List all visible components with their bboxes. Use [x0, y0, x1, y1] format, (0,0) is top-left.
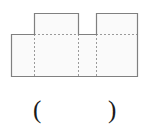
net-fill-group: [11, 13, 138, 77]
right-tab-fill: [96, 13, 138, 34]
figure-root: ( ): [0, 0, 149, 129]
base-rectangle-fill: [11, 34, 138, 77]
close-paren: ): [108, 96, 116, 124]
left-tab-fill: [34, 13, 78, 34]
answer-row: ( ): [0, 96, 149, 126]
open-paren: (: [33, 96, 41, 124]
